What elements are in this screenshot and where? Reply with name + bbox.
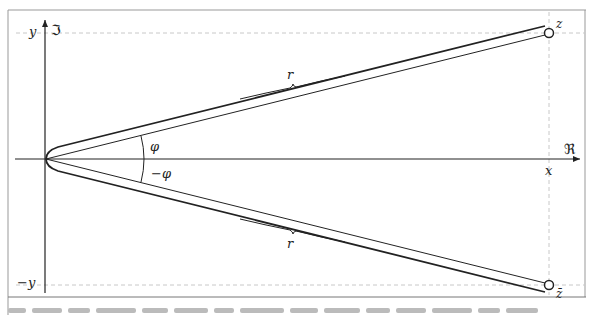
ray-to-z-conj xyxy=(46,159,545,283)
radius-label-upper: r xyxy=(287,68,293,81)
z-point-circle xyxy=(545,29,554,38)
z-label: z xyxy=(556,18,562,30)
dashed-guides xyxy=(16,12,585,295)
angle-phi-label: φ xyxy=(150,140,159,153)
z-conj-point-circle xyxy=(545,281,554,290)
ray-to-z xyxy=(46,35,545,159)
radius-label-lower: r xyxy=(287,237,293,250)
y-axis-label: y xyxy=(29,25,36,38)
angle-neg-phi-label: −φ xyxy=(151,167,171,180)
imaginary-axis-label: ℑ xyxy=(51,23,61,37)
axes xyxy=(15,20,580,293)
real-axis-label: ℜ xyxy=(564,142,575,156)
x-axis-label: x xyxy=(545,164,552,177)
frame-border xyxy=(8,10,586,315)
caption-strip-cropped xyxy=(8,298,586,315)
neg-y-label: −y xyxy=(17,276,35,289)
